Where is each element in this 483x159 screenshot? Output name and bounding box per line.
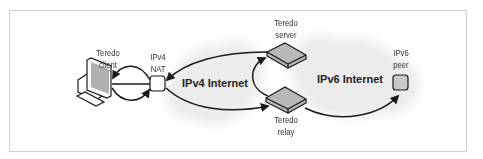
label-line: Teredo — [269, 114, 303, 126]
label-line: Teredo — [269, 17, 303, 29]
teredo-client-label: Teredo client — [91, 47, 125, 71]
label-line: server — [269, 29, 303, 41]
label-line: client — [91, 59, 125, 71]
client-to-nat-arrow — [112, 88, 149, 100]
label-line: NAT — [141, 63, 175, 75]
ipv6-peer-label: IPv6 peer — [384, 47, 418, 71]
label-line: IPv6 — [384, 47, 418, 59]
label-line: Teredo — [91, 47, 125, 59]
ipv6-internet-label: IPv6 Internet — [317, 73, 383, 85]
teredo-server-label: Teredo server — [269, 17, 303, 41]
ipv4-nat-node — [150, 76, 165, 91]
ipv4-nat-label: IPv4 NAT — [141, 51, 175, 75]
label-line: peer — [384, 59, 418, 71]
teredo-relay-label: Teredo relay — [269, 114, 303, 138]
ipv4-internet-label: IPv4 Internet — [182, 77, 248, 89]
label-line: IPv4 — [141, 51, 175, 63]
ipv6-peer-node — [393, 75, 408, 90]
label-line: relay — [269, 126, 303, 138]
